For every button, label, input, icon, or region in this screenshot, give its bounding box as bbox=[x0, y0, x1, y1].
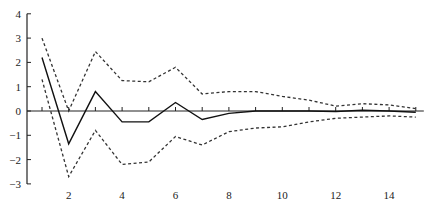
x-tick-label: 10 bbox=[277, 189, 289, 201]
y-tick-label: −1 bbox=[9, 129, 21, 141]
impulse-response-line bbox=[42, 58, 416, 144]
x-axis-tick-labels: 2468101214 bbox=[66, 189, 395, 201]
x-tick-label: 8 bbox=[226, 189, 232, 201]
y-tick-label: −3 bbox=[9, 178, 21, 190]
impulse-response-chart: 43210−1−2−3 2468101214 bbox=[0, 0, 440, 219]
x-tick-label: 12 bbox=[330, 189, 341, 201]
x-tick-label: 14 bbox=[384, 189, 396, 201]
y-axis: 43210−1−2−3 bbox=[9, 8, 31, 190]
upper-band-line bbox=[42, 38, 416, 111]
x-tick-label: 4 bbox=[119, 189, 125, 201]
y-tick-label: 1 bbox=[16, 81, 22, 93]
y-tick-label: 3 bbox=[16, 32, 22, 44]
y-tick-label: 4 bbox=[16, 8, 22, 20]
x-tick-label: 6 bbox=[173, 189, 179, 201]
y-tick-label: 0 bbox=[16, 105, 22, 117]
y-tick-label: −2 bbox=[9, 154, 21, 166]
x-tick-label: 2 bbox=[66, 189, 72, 201]
y-tick-label: 2 bbox=[16, 56, 22, 68]
